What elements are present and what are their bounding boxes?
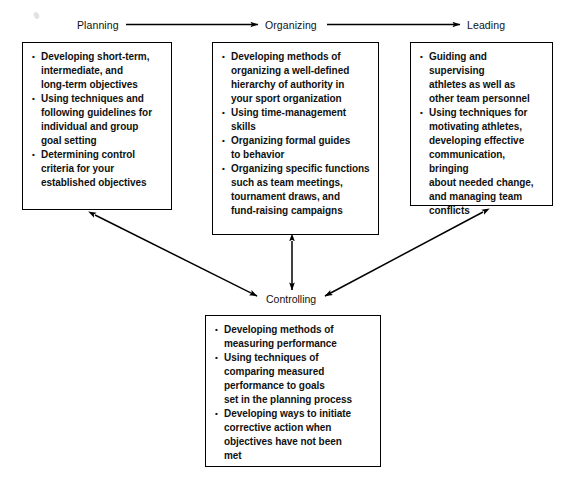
phase-label-organizing: Organizing	[265, 19, 317, 31]
list-item: Organizing specific functionssuch as tea…	[222, 162, 370, 218]
bullet-text: Organizing formal guidesto behavior	[231, 135, 350, 160]
bullet-text: Developing ways to initiatecorrective ac…	[224, 408, 351, 461]
bullet-text: Guiding and supervisingathletes as well …	[429, 51, 530, 104]
bullet-text: Developing methods oforganizing a well-d…	[231, 51, 349, 104]
scan-artifact-speck	[33, 11, 40, 19]
management-functions-diagram: Planning Organizing Leading Controlling …	[0, 0, 579, 490]
list-item: Using techniques formotivating athletes,…	[420, 106, 544, 218]
list-item: Developing short-term,intermediate, andl…	[32, 50, 163, 92]
list-item: Guiding and supervisingathletes as well …	[420, 50, 544, 106]
list-item: Using techniques andfollowing guidelines…	[32, 92, 163, 148]
bullet-text: Developing short-term,intermediate, andl…	[41, 51, 149, 90]
phase-label-planning: Planning	[77, 19, 119, 31]
phase-label-leading: Leading	[467, 19, 505, 31]
content-box-leading: Guiding and supervisingathletes as well …	[410, 42, 553, 206]
bullet-list-organizing: Developing methods oforganizing a well-d…	[222, 50, 370, 218]
content-box-planning: Developing short-term,intermediate, andl…	[22, 42, 172, 210]
list-item: Using techniques ofcomparing measuredper…	[215, 351, 372, 407]
bullet-text: Using time-managementskills	[231, 107, 346, 132]
bullet-text: Using techniques formotivating athletes,…	[429, 107, 534, 216]
bullet-text: Using techniques andfollowing guidelines…	[41, 93, 152, 146]
phase-label-controlling: Controlling	[266, 293, 316, 305]
bullet-text: Developing methods ofmeasuring performan…	[224, 324, 337, 349]
list-item: Organizing formal guidesto behavior	[222, 134, 370, 162]
list-item: Using time-managementskills	[222, 106, 370, 134]
bullet-text: Organizing specific functionssuch as tea…	[231, 163, 370, 216]
content-box-organizing: Developing methods oforganizing a well-d…	[212, 42, 379, 235]
bullet-text: Determining controlcriteria for youresta…	[41, 149, 147, 188]
list-item: Determining controlcriteria for youresta…	[32, 148, 163, 190]
bullet-list-leading: Guiding and supervisingathletes as well …	[420, 50, 544, 218]
content-box-controlling: Developing methods ofmeasuring performan…	[205, 315, 381, 467]
bullet-list-controlling: Developing methods ofmeasuring performan…	[215, 323, 372, 463]
bullet-text: Using techniques ofcomparing measuredper…	[224, 352, 352, 405]
list-item: Developing methods ofmeasuring performan…	[215, 323, 372, 351]
list-item: Developing ways to initiatecorrective ac…	[215, 407, 372, 463]
bullet-list-planning: Developing short-term,intermediate, andl…	[32, 50, 163, 190]
list-item: Developing methods oforganizing a well-d…	[222, 50, 370, 106]
